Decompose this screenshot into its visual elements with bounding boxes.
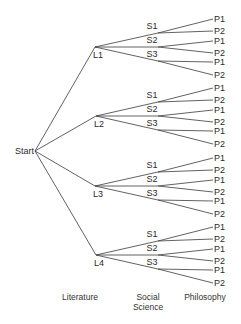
node-label-l3: L3 (93, 189, 103, 199)
edge-l1-s2-p2 (158, 47, 213, 53)
leaf-label-l4-s1-p2: P2 (214, 234, 225, 244)
leaf-label-l2-s3-p2: P2 (214, 139, 225, 149)
node-label-l2-s2: S2 (146, 104, 157, 114)
node-label-l2: L2 (94, 119, 104, 129)
leaf-label-l1-s2-p1: P1 (214, 36, 225, 46)
edge-l4-s3-p1 (158, 269, 213, 270)
edge-start-l2 (35, 116, 96, 151)
leaf-label-l3-s2-p1: P1 (214, 175, 225, 185)
node-label-l3-s3: S3 (146, 188, 157, 198)
edge-l4-s2-p1 (158, 249, 213, 255)
edge-start-l4 (35, 151, 96, 255)
edge-l3-s3-p2 (158, 200, 213, 214)
leaf-label-l3-s1-p1: P1 (214, 153, 225, 163)
leaf-label-l4-s3-p1: P1 (214, 265, 225, 275)
axis-label-social-science-line2: Science (128, 302, 168, 312)
edge-l1-s3-p2 (158, 61, 213, 75)
tree-labels: StartL1S1P1P2S2P1P2S3P1P2L2S1P1P2S2P1P2S… (15, 14, 225, 288)
node-label-start: Start (15, 146, 35, 156)
edge-start-l1 (35, 47, 95, 151)
edge-l3-s2-p1 (158, 180, 213, 186)
leaf-label-l4-s2-p1: P1 (214, 244, 225, 254)
leaf-label-l1-s1-p1: P1 (214, 14, 225, 24)
node-label-l4-s2: S2 (146, 243, 157, 253)
edge-l3-s3-p1 (158, 200, 213, 201)
edge-start-l3 (35, 151, 95, 186)
axis-label-social-science-line1: Social (128, 292, 168, 302)
node-label-l2-s3: S3 (146, 118, 157, 128)
edge-l2-s2-p1 (158, 110, 213, 116)
node-label-l1: L1 (93, 50, 103, 60)
leaf-label-l4-s1-p1: P1 (214, 222, 225, 232)
leaf-label-l2-s1-p1: P1 (214, 83, 225, 93)
node-label-l2-s1: S1 (146, 90, 157, 100)
leaf-label-l1-s3-p2: P2 (214, 70, 225, 80)
leaf-label-l2-s1-p2: P2 (214, 95, 225, 105)
node-label-l1-s1: S1 (146, 21, 157, 31)
edge-l2-s3-p2 (158, 130, 213, 144)
node-label-l3-s2: S2 (146, 174, 157, 184)
node-label-l1-s2: S2 (146, 35, 157, 45)
tree-edges (35, 19, 213, 283)
axis-label-literature: Literature (55, 292, 105, 302)
node-label-l4-s3: S3 (146, 257, 157, 267)
leaf-label-l3-s1-p2: P2 (214, 165, 225, 175)
leaf-label-l2-s3-p1: P1 (214, 126, 225, 136)
leaf-label-l4-s3-p2: P2 (214, 278, 225, 288)
edge-l3-s2-p2 (158, 186, 213, 192)
leaf-label-l1-s1-p2: P2 (214, 26, 225, 36)
node-label-l3-s1: S1 (146, 160, 157, 170)
edge-l4-s2-p2 (158, 255, 213, 261)
leaf-label-l3-s3-p2: P2 (214, 209, 225, 219)
axis-label-philosophy: Philosophy (176, 292, 234, 302)
axis-label-social-science: Social Science (128, 292, 168, 312)
tree-diagram: StartL1S1P1P2S2P1P2S3P1P2L2S1P1P2S2P1P2S… (0, 0, 241, 324)
leaf-label-l2-s2-p1: P1 (214, 105, 225, 115)
edge-l2-s2-p2 (158, 116, 213, 122)
leaf-label-l1-s3-p1: P1 (214, 57, 225, 67)
node-label-l4-s1: S1 (146, 229, 157, 239)
edge-l4-s3-p2 (158, 269, 213, 283)
node-label-l4: L4 (94, 258, 104, 268)
leaf-label-l3-s3-p1: P1 (214, 196, 225, 206)
edge-l1-s2-p1 (158, 41, 213, 47)
edge-l1-s3-p1 (158, 61, 213, 62)
edge-l2-s3-p1 (158, 130, 213, 131)
node-label-l1-s3: S3 (146, 49, 157, 59)
